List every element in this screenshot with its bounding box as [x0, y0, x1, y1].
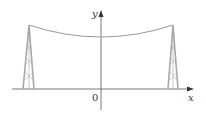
y-axis-arrow-icon [99, 10, 104, 17]
origin-label: 0 [92, 92, 98, 103]
right-tower [168, 25, 178, 89]
x-axis-arrow-icon [187, 87, 194, 92]
y-axis-label: y [91, 8, 98, 19]
left-tower [23, 25, 34, 89]
catenary-diagram: y x 0 [0, 0, 206, 118]
x-axis-label: x [188, 92, 194, 103]
